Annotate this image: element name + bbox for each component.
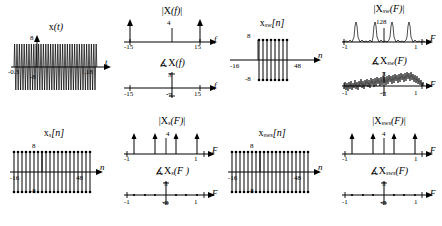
x-right-label: 1	[194, 199, 198, 206]
panel-X-f-phase-title: ∡X(f)	[142, 58, 202, 68]
x-left-label: -1	[342, 44, 348, 51]
y-top-label: π	[164, 180, 168, 188]
y-max-label: 8	[250, 143, 254, 150]
x-left-label: -1	[342, 199, 348, 206]
y-max-label: 8	[32, 143, 36, 150]
panel-X-f-phase: ∡X(f) π -π -15 15 f	[122, 58, 222, 102]
peak-label: 128	[376, 19, 387, 26]
panel-Xsw-F-magnitude: |Xsw(F)| 128 -1 1 F	[338, 4, 442, 54]
x-right-label: 48	[294, 175, 301, 182]
panel-Xs-F-magnitude-title: |Xs(F)|	[140, 116, 204, 127]
x-right-label: 15	[194, 91, 201, 98]
x-left-label: -1	[124, 156, 130, 163]
x-axis-symbol: f	[214, 35, 217, 44]
panel-Xsws-F-magnitude: |Xsws(F)| 4 -1 1 F	[338, 116, 442, 166]
x-axis-symbol: f	[214, 81, 217, 90]
y-min-label: -8	[30, 74, 36, 81]
x-axis-symbol: n	[100, 163, 105, 172]
y-max-label: 8	[247, 33, 251, 40]
y-top-label: π	[382, 70, 386, 78]
xsws-n-plot	[226, 128, 330, 210]
x-left-label: -1	[124, 199, 130, 206]
panel-X-f-magnitude-title: |X(f)|	[142, 6, 202, 16]
panel-Xsws-F-phase-title: ∡Xsws(F)	[352, 166, 426, 177]
panel-xsws-n: xsws[n] 8 -8 -16 48 n	[226, 128, 330, 210]
panel-Xsw-F-magnitude-title: |Xsw(F)|	[354, 4, 424, 15]
panel-x-t: x(t) 8 -8 -0.3 .18 t	[8, 22, 112, 92]
x-axis-symbol: n	[318, 163, 323, 172]
panel-xs-n-title: xs[n]	[24, 128, 84, 139]
xsw-n-plot	[228, 18, 328, 96]
y-top-label: π	[168, 71, 172, 79]
panel-Xsws-F-magnitude-title: |Xsws(F)|	[352, 116, 426, 127]
x-left-label: -15	[124, 44, 133, 51]
x-right-label: .18	[84, 69, 93, 76]
y-bot-label: -π	[162, 199, 168, 207]
y-bot-label: -π	[380, 199, 386, 207]
panel-Xsw-F-phase: ∡Xsw(F) π -π -1 1 F	[338, 56, 442, 102]
x-axis-symbol: F	[212, 146, 218, 155]
x-left-label: -16	[230, 63, 239, 70]
x-left-label: -16	[10, 175, 19, 182]
x-right-label: 48	[76, 175, 83, 182]
xs-n-plot	[8, 128, 112, 210]
y-top-label: π	[382, 180, 386, 188]
x-left-label: -0.3	[8, 69, 19, 76]
x-right-label: 1	[414, 44, 418, 51]
y-max-label: 8	[30, 35, 34, 42]
panel-xs-n: xs[n] 8 -8 -16 48 n	[8, 128, 112, 210]
x-axis-symbol: t	[105, 58, 108, 67]
x-axis-symbol: F	[430, 146, 436, 155]
x-axis-symbol: n	[318, 51, 323, 60]
x-right-label: 1	[194, 156, 198, 163]
x-t-plot	[8, 22, 112, 92]
peak-label: 4	[166, 131, 170, 138]
x-axis-symbol: F	[212, 189, 218, 198]
x-left-label: -1	[342, 156, 348, 163]
panel-Xsw-F-phase-title: ∡Xsw(F)	[354, 56, 424, 67]
signal-processing-figure: x(t) 8 -8 -0.3 .18 t |X(f)| 4 -15 15 f	[0, 0, 442, 226]
panel-Xs-F-magnitude: |Xs(F)| 4 -1 1 F	[122, 116, 222, 166]
x-left-label: -15	[124, 91, 133, 98]
x-right-label: 1	[414, 199, 418, 206]
x-axis-symbol: F	[430, 34, 436, 43]
panel-X-f-magnitude: |X(f)| 4 -15 15 f	[122, 6, 222, 54]
panel-Xs-F-phase: ∡Xs(F ) π -π -1 1 F	[122, 166, 222, 212]
panel-Xs-F-phase-title: ∡Xs(F )	[140, 166, 204, 177]
y-min-label: -8	[248, 188, 254, 195]
x-left-label: -16	[228, 175, 237, 182]
y-min-label: -8	[30, 188, 36, 195]
peak-label: 4	[167, 20, 171, 27]
x-left-label: -1	[342, 90, 348, 97]
x-right-label: 15	[194, 44, 201, 51]
panel-x-t-title: x(t)	[26, 22, 86, 32]
peak-label: 4	[382, 131, 386, 138]
panel-xsw-n-title: xsw[n]	[240, 18, 304, 29]
x-right-label: 1	[414, 90, 418, 97]
x-right-label: 48	[294, 63, 301, 70]
panel-xsw-n: xsw[n] 8 -8 -16 48 n	[228, 18, 328, 96]
x-axis-symbol: F	[430, 189, 436, 198]
panel-Xsws-F-phase: ∡Xsws(F) π -π -1 1 F	[338, 166, 442, 212]
y-bot-label: -π	[166, 91, 172, 99]
x-axis-symbol: F	[430, 80, 436, 89]
panel-xsws-n-title: xsws[n]	[238, 128, 306, 139]
x-right-label: 1	[414, 156, 418, 163]
y-min-label: -8	[245, 76, 251, 83]
y-bot-label: -π	[380, 90, 386, 98]
